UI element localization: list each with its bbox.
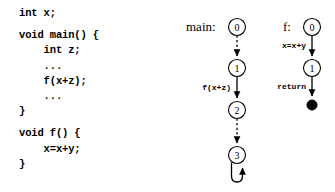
graph-caption-f: f: [283,19,291,35]
edge-label-f-return: return [277,82,306,91]
edge-main-3-self-loop [232,163,243,183]
code-line: x=x+y; [19,142,169,157]
node-f-0-label: 0 [310,22,315,33]
code-line: ... [19,89,169,104]
code-line: int z; [19,43,169,58]
code-line: int x; [19,6,169,21]
code-line: void main() { [19,28,169,43]
edge-label-f-assign: x=x+y [282,41,306,50]
diagram-page: int x; void main() { int z; ... f(x+z); … [0,0,335,192]
code-line: } [19,157,169,172]
code-line: f(x+z); [19,74,169,89]
node-f-exit-terminal[interactable] [307,100,317,110]
node-main-0[interactable] [229,19,246,36]
source-code-listing: int x; void main() { int z; ... f(x+z); … [19,6,169,172]
code-line-blank [19,119,169,126]
node-f-0[interactable] [304,19,321,36]
code-line: ... [19,59,169,74]
node-f-1[interactable] [304,60,321,77]
graph-caption-main: main: [186,19,216,35]
node-main-3[interactable] [229,147,246,164]
node-main-2[interactable] [229,102,246,119]
edge-label-main-call: f(x+z) [202,83,231,92]
node-main-1[interactable] [229,60,246,77]
node-main-1-label: 1 [235,63,240,74]
code-line: void f() { [19,126,169,141]
node-main-2-label: 2 [235,105,240,116]
node-main-0-label: 0 [235,22,240,33]
node-f-1-label: 1 [310,63,315,74]
code-line-blank [19,21,169,28]
code-line: } [19,104,169,119]
node-main-3-label: 3 [235,150,240,161]
